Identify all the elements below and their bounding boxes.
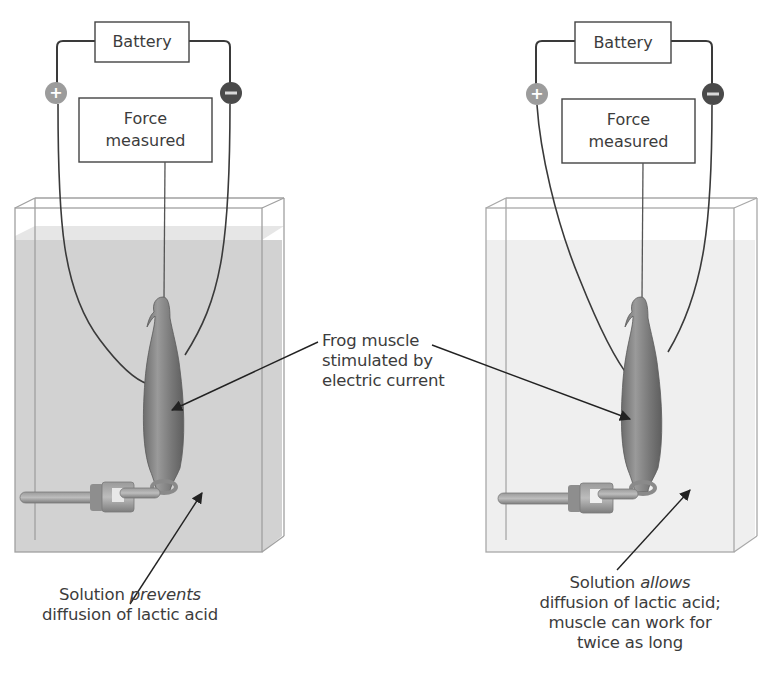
svg-text:+: + bbox=[49, 83, 62, 102]
right-caption-line1: Solution allows bbox=[520, 573, 740, 593]
center-label-line3: electric current bbox=[322, 371, 444, 391]
right-battery-label: Battery bbox=[575, 32, 671, 53]
right-caption-line3: muscle can work for bbox=[520, 613, 740, 633]
right-force-label-line2: measured bbox=[562, 131, 695, 152]
right-caption-emphasis: allows bbox=[640, 573, 690, 592]
figure: + bbox=[0, 0, 761, 675]
left-caption-emphasis: prevents bbox=[130, 585, 201, 604]
left-battery-label: Battery bbox=[95, 31, 189, 52]
left-caption-line2: diffusion of lactic acid bbox=[20, 605, 240, 625]
left-force-label-line2: measured bbox=[79, 130, 212, 151]
left-caption-prefix: Solution bbox=[59, 585, 130, 604]
svg-text:+: + bbox=[530, 84, 543, 103]
left-caption-line1: Solution prevents bbox=[20, 585, 240, 605]
right-caption-line2: diffusion of lactic acid; bbox=[520, 593, 740, 613]
right-force-label-line1: Force bbox=[562, 109, 695, 130]
right-setup: + bbox=[432, 22, 757, 570]
right-caption-prefix: Solution bbox=[570, 573, 641, 592]
left-force-label-line1: Force bbox=[79, 108, 212, 129]
center-label-line1: Frog muscle bbox=[322, 331, 419, 351]
center-label-line2: stimulated by bbox=[322, 351, 433, 371]
right-caption-line4: twice as long bbox=[520, 633, 740, 653]
